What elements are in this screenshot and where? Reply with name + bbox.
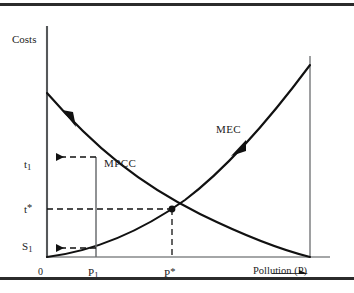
- mec-curve: [47, 65, 310, 257]
- x-tick-pstar-asterisk: *: [170, 266, 175, 277]
- y-tick-tstar-asterisk: *: [27, 202, 32, 213]
- bottom-divider-rule: [0, 277, 354, 280]
- pollution-cost-diagram: Costs t1 t* S1 0 P1 P* MPCC MEC Pollutio…: [0, 8, 354, 274]
- y-tick-label-t1: t1: [24, 159, 31, 171]
- x-axis-title: Pollution (P): [253, 266, 307, 277]
- mpcc-curve-label: MPCC: [104, 158, 136, 169]
- top-divider-rule: [0, 3, 354, 6]
- mpcc-curve: [47, 93, 310, 257]
- y-axis-title: Costs: [12, 34, 36, 45]
- diagram-canvas: [0, 8, 354, 274]
- y-tick-s1-subscript: 1: [28, 244, 32, 254]
- equilibrium-point-marker: [169, 206, 176, 213]
- y-tick-t1-subscript: 1: [27, 162, 31, 172]
- mec-curve-label: MEC: [216, 124, 241, 135]
- y-tick-label-tstar: t*: [24, 203, 32, 215]
- mec-direction-arrow-icon: [231, 140, 246, 156]
- y-tick-label-s1: S1: [22, 241, 32, 253]
- origin-label: 0: [38, 267, 43, 277]
